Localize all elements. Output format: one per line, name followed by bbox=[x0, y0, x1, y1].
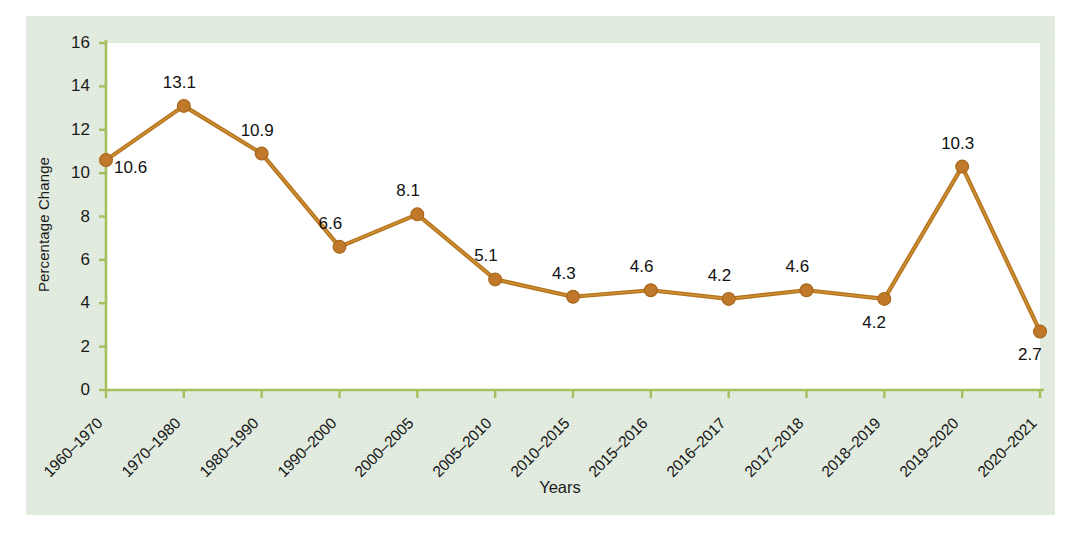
axes-group bbox=[99, 40, 1044, 398]
data-point-label: 4.2 bbox=[708, 266, 732, 286]
data-point-label: 6.6 bbox=[319, 214, 343, 234]
data-point-marker[interactable] bbox=[411, 208, 424, 221]
data-point-label: 10.9 bbox=[241, 121, 274, 141]
data-point-label: 13.1 bbox=[163, 73, 196, 93]
data-point-marker[interactable] bbox=[177, 99, 190, 112]
data-point-marker[interactable] bbox=[956, 160, 969, 173]
data-point-label: 5.1 bbox=[474, 246, 498, 266]
data-point-marker[interactable] bbox=[100, 154, 113, 167]
data-point-marker[interactable] bbox=[255, 147, 268, 160]
data-point-label: 10.6 bbox=[114, 158, 147, 178]
data-point-label: 4.3 bbox=[552, 264, 576, 284]
y-axis-tick-label: 16 bbox=[50, 33, 90, 53]
y-axis-tick-label: 14 bbox=[50, 76, 90, 96]
data-point-label: 4.6 bbox=[630, 257, 654, 277]
data-point-marker[interactable] bbox=[800, 284, 813, 297]
y-axis-tick-label: 12 bbox=[50, 120, 90, 140]
y-axis-tick-label: 4 bbox=[50, 293, 90, 313]
data-point-label: 8.1 bbox=[396, 181, 420, 201]
y-axis-tick-label: 10 bbox=[50, 163, 90, 183]
y-axis-tick-label: 0 bbox=[50, 380, 90, 400]
data-point-marker[interactable] bbox=[722, 293, 735, 306]
data-point-marker[interactable] bbox=[489, 273, 502, 286]
data-point-label: 10.3 bbox=[941, 134, 974, 154]
chart-figure: Percentage Change Years 0246810121416 19… bbox=[0, 0, 1086, 544]
y-axis-tick-label: 8 bbox=[50, 207, 90, 227]
data-point-marker[interactable] bbox=[567, 290, 580, 303]
data-point-marker[interactable] bbox=[333, 240, 346, 253]
data-point-label: 2.7 bbox=[1018, 345, 1042, 365]
data-point-marker[interactable] bbox=[1034, 325, 1047, 338]
data-point-marker[interactable] bbox=[878, 293, 891, 306]
y-axis-tick-label: 2 bbox=[50, 337, 90, 357]
data-point-marker[interactable] bbox=[644, 284, 657, 297]
data-point-label: 4.6 bbox=[786, 257, 810, 277]
y-axis-tick-label: 6 bbox=[50, 250, 90, 270]
data-point-label: 4.2 bbox=[862, 313, 886, 333]
